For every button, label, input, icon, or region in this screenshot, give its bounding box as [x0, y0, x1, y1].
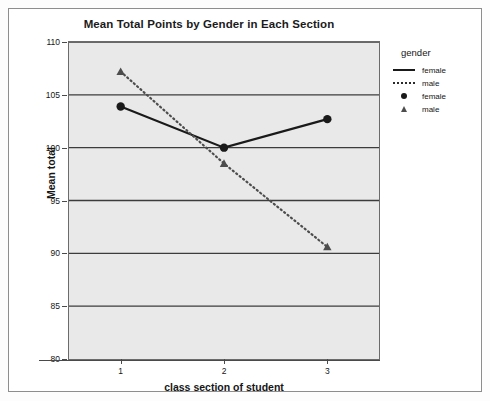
gridlines [69, 42, 379, 359]
y-tick-mark [62, 42, 67, 43]
y-tick-mark [62, 95, 67, 96]
triangle-marker-glyph [401, 106, 407, 112]
x-tick-label: 3 [312, 366, 342, 376]
x-tick-mark [327, 359, 328, 364]
y-tick-mark [62, 201, 67, 202]
dotted-line-icon [391, 77, 419, 89]
solid-line-icon [391, 64, 419, 76]
legend-label: female [422, 66, 446, 75]
legend-title: gender [401, 47, 487, 58]
y-tick-label: 110 [26, 37, 60, 47]
triangle-marker-icon [391, 103, 419, 115]
legend-entries: femalemalefemalemale [391, 64, 487, 115]
y-tick-mark [62, 306, 67, 307]
legend-entry: male [391, 103, 487, 115]
x-axis-label: class section of student [68, 381, 380, 393]
data-point-marker [323, 115, 331, 123]
y-tick-label: 85 [26, 301, 60, 311]
figure-canvas: Mean Total Points by Gender in Each Sect… [0, 0, 490, 401]
y-tick-label: 100 [26, 143, 60, 153]
y-tick-mark [62, 253, 67, 254]
y-tick-label: 105 [26, 90, 60, 100]
legend-label: male [422, 105, 439, 114]
circle-marker-glyph [401, 93, 407, 99]
y-tick-label: 80 [26, 354, 60, 364]
data-point-marker [323, 243, 331, 251]
legend-entry: male [391, 77, 487, 89]
y-tick-label: 90 [26, 248, 60, 258]
chart-title: Mean Total Points by Gender in Each Sect… [29, 18, 389, 30]
solid-line-glyph [393, 69, 415, 71]
data-point-marker [220, 143, 228, 151]
chart-legend: gender femalemalefemalemale [391, 47, 487, 116]
x-tick-mark [224, 359, 225, 364]
data-point-marker [116, 102, 124, 110]
dotted-line-glyph [393, 82, 415, 84]
data-point-marker [116, 67, 124, 75]
series-line-male [121, 72, 328, 247]
circle-marker-icon [391, 90, 419, 102]
plot-svg [69, 42, 379, 359]
y-tick-mark [62, 148, 67, 149]
plot-area [68, 41, 380, 360]
y-tick-label: 95 [26, 196, 60, 206]
x-tick-label: 1 [106, 366, 136, 376]
series-line-female [121, 106, 328, 147]
legend-label: female [422, 92, 446, 101]
legend-entry: female [391, 64, 487, 76]
chart-frame: Mean Total Points by Gender in Each Sect… [8, 8, 482, 392]
legend-entry: female [391, 90, 487, 102]
x-tick-label: 2 [209, 366, 239, 376]
x-axis-line [39, 360, 380, 361]
legend-label: male [422, 79, 439, 88]
x-tick-mark [121, 359, 122, 364]
y-axis-label: Mean total [45, 113, 57, 233]
